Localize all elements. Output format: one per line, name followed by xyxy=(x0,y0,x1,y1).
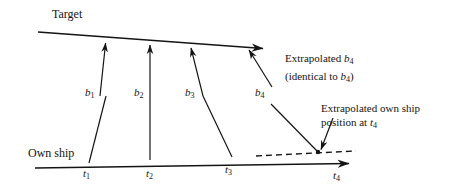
annotation-extrapolated-b4-line2: (identical to b4) xyxy=(285,69,354,87)
extrapolated-own-ship-dashed-line xyxy=(256,151,356,156)
extrap-own-l2-sub: 4 xyxy=(373,121,377,130)
extrap-b4-l2-post: ) xyxy=(350,70,354,82)
label-t1-sub: 1 xyxy=(86,172,90,181)
label-t4-sub: 4 xyxy=(336,174,340,183)
label-t3-sub: 3 xyxy=(228,168,232,177)
label-b2: b2 xyxy=(134,86,144,102)
label-b1-sub: 1 xyxy=(91,91,95,100)
label-own-ship-text: Own ship xyxy=(28,146,74,160)
label-b3-sub: 3 xyxy=(191,91,195,100)
extrap-b4-l1-pre: Extrapolated xyxy=(285,52,344,64)
time-connector-t4 xyxy=(271,104,318,152)
annotation-extrapolated-own-ship-line1: Extrapolated own ship xyxy=(321,101,420,115)
extrap-own-l2-pre: position at xyxy=(321,116,370,128)
label-b4: b4 xyxy=(255,86,265,102)
label-target-text: Target xyxy=(52,7,82,21)
annotation-extrapolated-b4-line1: Extrapolated b4 xyxy=(285,51,354,69)
bearing-line-b1 xyxy=(100,43,106,96)
label-t3: t3 xyxy=(225,163,232,179)
label-target: Target xyxy=(52,8,82,21)
extrap-b4-l2-pre: (identical to xyxy=(285,70,341,82)
time-connector-t1 xyxy=(89,96,106,163)
extrap-b4-l1-sub: 4 xyxy=(349,57,353,66)
label-t2: t2 xyxy=(146,167,153,183)
label-own-ship: Own ship xyxy=(28,147,74,160)
label-t2-sub: 2 xyxy=(149,172,153,181)
annotation-extrapolated-b4: Extrapolated b4 (identical to b4) xyxy=(285,51,354,87)
bearing-line-b4 xyxy=(249,50,272,87)
extrap-own-l1: Extrapolated own ship xyxy=(321,102,420,114)
label-t4: t4 xyxy=(333,169,340,185)
label-t1: t1 xyxy=(83,167,90,183)
intersection-dot xyxy=(316,150,320,154)
label-b2-sub: 2 xyxy=(140,91,144,100)
label-b4-sub: 4 xyxy=(261,91,265,100)
annotation-extrapolated-own-ship: Extrapolated own ship position at t4 xyxy=(321,101,420,133)
annotation-extrapolated-own-ship-line2: position at t4 xyxy=(321,115,420,133)
label-b3: b3 xyxy=(185,86,195,102)
time-connector-t3 xyxy=(203,96,232,157)
label-b1: b1 xyxy=(85,86,95,102)
